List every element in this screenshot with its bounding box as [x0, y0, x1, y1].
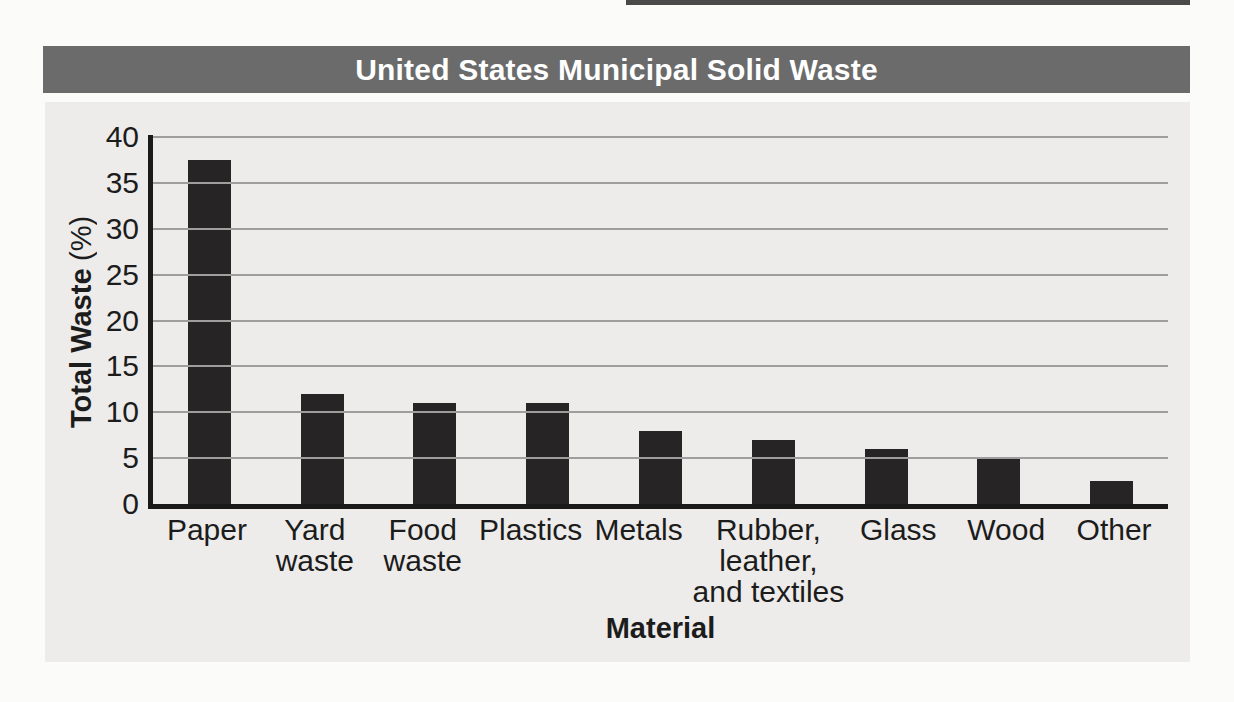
- x-category-label-2: Foodwaste: [369, 514, 477, 607]
- x-category-label-line: Paper: [153, 514, 261, 545]
- x-category-label-line: Wood: [952, 514, 1060, 545]
- y-tick-label-20: 20: [83, 305, 139, 337]
- x-category-label-line: Glass: [844, 514, 952, 545]
- y-tick-label-35: 35: [83, 167, 139, 199]
- y-tick-label-15: 15: [83, 350, 139, 382]
- chart-title: United States Municipal Solid Waste: [355, 53, 878, 87]
- y-tick-label-30: 30: [83, 213, 139, 245]
- gridline-35: [153, 182, 1168, 184]
- x-category-label-line: Rubber,: [693, 514, 845, 545]
- x-category-label-line: waste: [369, 545, 477, 576]
- gridline-40: [153, 136, 1168, 138]
- x-category-label-6: Glass: [844, 514, 952, 607]
- x-category-label-0: Paper: [153, 514, 261, 607]
- x-axis-title: Material: [153, 612, 1168, 645]
- x-category-label-line: Food: [369, 514, 477, 545]
- x-category-label-1: Yardwaste: [261, 514, 369, 607]
- bar-metals: [639, 431, 682, 504]
- gridline-10: [153, 411, 1168, 413]
- gridline-20: [153, 320, 1168, 322]
- cropped-element-bottom-edge: [626, 0, 1190, 5]
- x-category-label-3: Plastics: [477, 514, 585, 607]
- gridline-30: [153, 228, 1168, 230]
- chart-panel: Total Waste (%) 0510152025303540 PaperYa…: [45, 102, 1190, 662]
- x-category-label-7: Wood: [952, 514, 1060, 607]
- bar-plastics: [526, 403, 569, 504]
- y-tick-label-0: 0: [83, 488, 139, 520]
- x-category-label-line: waste: [261, 545, 369, 576]
- x-axis-line: [148, 504, 1168, 509]
- plot-area: 0510152025303540: [153, 137, 1168, 504]
- x-category-labels: PaperYardwasteFoodwastePlasticsMetalsRub…: [153, 514, 1168, 607]
- y-tick-label-10: 10: [83, 396, 139, 428]
- bar-rubber-leather-and-textiles: [752, 440, 795, 504]
- x-category-label-8: Other: [1060, 514, 1168, 607]
- bar-food-waste: [413, 403, 456, 504]
- x-category-label-line: Plastics: [477, 514, 585, 545]
- y-tick-label-5: 5: [83, 442, 139, 474]
- x-category-label-line: leather,: [693, 545, 845, 576]
- gridline-5: [153, 457, 1168, 459]
- x-category-label-line: and textiles: [693, 576, 845, 607]
- bar-paper: [188, 160, 231, 504]
- x-category-label-line: Metals: [585, 514, 693, 545]
- y-tick-label-40: 40: [83, 121, 139, 153]
- x-category-label-4: Metals: [585, 514, 693, 607]
- bar-other: [1090, 481, 1133, 504]
- x-category-label-5: Rubber,leather,and textiles: [693, 514, 845, 607]
- chart-title-bar: United States Municipal Solid Waste: [43, 46, 1190, 93]
- gridline-25: [153, 274, 1168, 276]
- bar-wood: [977, 458, 1020, 504]
- x-category-label-line: Yard: [261, 514, 369, 545]
- scanned-textbook-figure: United States Municipal Solid Waste Tota…: [0, 0, 1234, 702]
- gridline-15: [153, 365, 1168, 367]
- y-tick-label-25: 25: [83, 259, 139, 291]
- x-category-label-line: Other: [1060, 514, 1168, 545]
